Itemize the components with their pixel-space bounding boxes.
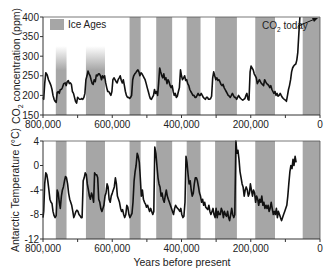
bottom-x-ticks: 800,000600,000400,000200,0000: [25, 239, 323, 254]
ice-age-band: [303, 141, 320, 239]
ice-age-band: [56, 46, 67, 115]
y-tick-label: 300: [22, 51, 39, 62]
y-tick-label: 250: [22, 70, 39, 81]
x-tick-label: 0: [317, 119, 323, 130]
legend-swatch: [50, 19, 64, 30]
x-tick-label: 800,000: [25, 119, 62, 130]
ice-age-band: [156, 17, 172, 115]
y-tick-label: -8: [30, 209, 39, 220]
bottom-y-ticks: -12-8-404: [25, 136, 43, 245]
y-tick-label: 350: [22, 31, 39, 42]
y-tick-label: 200: [22, 90, 39, 101]
y-tick-label: 0: [33, 160, 39, 171]
legend-label: Ice Ages: [68, 19, 106, 30]
ice-age-band: [215, 17, 237, 115]
x-tick-label: 400,000: [163, 243, 200, 254]
x-tick-label: 800,000: [25, 243, 62, 254]
ice-age-band: [215, 141, 237, 239]
ice-age-band: [130, 141, 141, 239]
annotation-text: CO2 today: [262, 20, 308, 33]
ice-age-bands-bottom: [56, 141, 320, 239]
ice-age-band: [130, 17, 141, 115]
ice-age-band: [187, 17, 201, 115]
top-y-ticks: 150200250300350400: [22, 12, 43, 121]
y-tick-label: 4: [33, 136, 39, 147]
x-tick-label: 0: [317, 243, 323, 254]
co2-panel: Ice Ages 150200250300350400 800,000600,0…: [10, 8, 323, 130]
x-tick-label: 600,000: [94, 119, 131, 130]
temperature-panel: -12-8-404 800,000600,000400,000200,0000 …: [9, 128, 323, 268]
ice-age-band: [255, 17, 275, 115]
x-tick-label: 600,000: [94, 243, 131, 254]
y-tick-label: -4: [30, 185, 39, 196]
bottom-y-axis-title: Antarctic Temperature (°C): [9, 128, 21, 252]
top-x-ticks: 800,000600,000400,000200,0000: [25, 115, 323, 130]
x-tick-label: 400,000: [163, 119, 200, 130]
x-axis-title: Years before present: [133, 256, 230, 268]
y-tick-label: 400: [22, 12, 39, 23]
x-tick-label: 200,000: [233, 119, 270, 130]
chart-figure: Ice Ages 150200250300350400 800,000600,0…: [0, 0, 336, 274]
ice-age-band: [156, 141, 172, 239]
ice-age-band: [255, 141, 275, 239]
legend: Ice Ages: [50, 19, 106, 30]
x-tick-label: 200,000: [233, 243, 270, 254]
top-y-axis-title: CO2 concentration (ppm): [10, 8, 24, 124]
ice-age-band: [303, 17, 320, 115]
